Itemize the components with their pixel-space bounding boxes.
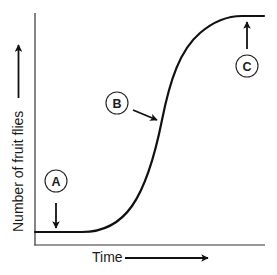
- growth-curve: [35, 16, 264, 232]
- population-growth-chart: A B C Time Number of fruit flies: [0, 0, 277, 275]
- marker-b-arrow-icon: [133, 110, 157, 120]
- marker-a: A: [45, 170, 67, 228]
- marker-c: C: [236, 22, 258, 77]
- marker-c-label: C: [242, 60, 251, 74]
- marker-a-label: A: [51, 175, 60, 189]
- marker-b-label: B: [112, 97, 121, 111]
- x-axis-label: Time: [92, 249, 123, 265]
- marker-b: B: [106, 92, 157, 120]
- y-axis-label: Number of fruit flies: [10, 111, 26, 232]
